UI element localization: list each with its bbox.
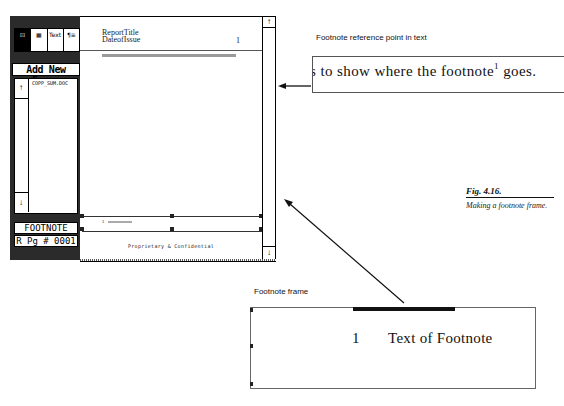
footnote-separator-line [353,307,455,311]
footnote-frame-caption: Footnote frame [254,287,308,296]
footnote-text: Text of Footnote [388,330,493,347]
resize-handle [250,308,253,312]
resize-handle [250,344,253,348]
figure-rule [466,197,554,198]
resize-handle [250,382,253,386]
figure-caption: Making a footnote frame. [466,201,556,211]
figure-label: Fig. 4.16. [466,186,502,196]
footnote-number: 1 [352,330,360,347]
footnote-zoom-box [250,307,536,389]
